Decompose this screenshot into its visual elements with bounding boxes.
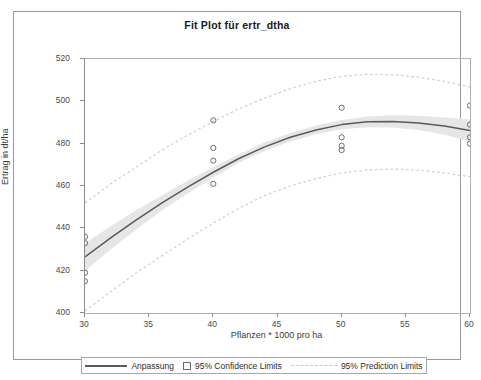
y-tick-label: 460 bbox=[36, 180, 70, 190]
y-tick-label: 480 bbox=[36, 138, 70, 148]
chart-legend: Anpassung 95% Confidence Limits 95% Pred… bbox=[81, 357, 427, 374]
fit-line bbox=[85, 121, 470, 256]
y-axis-title: Ertrag in dt/ha bbox=[0, 128, 10, 185]
dashed-line-icon bbox=[291, 365, 337, 366]
legend-entry-prediction: 95% Prediction Limits bbox=[291, 361, 423, 371]
data-points bbox=[85, 103, 470, 284]
fit-plot-screenshot: Fit Plot für ertr_dtha Ertrag in dt/ha P… bbox=[0, 0, 481, 380]
y-tick-label: 420 bbox=[36, 265, 70, 275]
x-tick-label: 45 bbox=[272, 319, 281, 329]
x-axis-title: Pflanzen * 1000 pro ha bbox=[84, 330, 469, 340]
y-tick-label: 500 bbox=[36, 95, 70, 105]
x-tick-label: 40 bbox=[208, 319, 217, 329]
x-tick-label: 30 bbox=[79, 319, 88, 329]
plot-canvas bbox=[85, 59, 470, 313]
x-tick-label: 60 bbox=[464, 319, 473, 329]
chart-panel: Fit Plot für ertr_dtha Ertrag in dt/ha P… bbox=[13, 11, 461, 360]
chart-title: Fit Plot für ertr_dtha bbox=[14, 19, 460, 31]
legend-label-confidence: 95% Confidence Limits bbox=[195, 361, 282, 371]
legend-entry-confidence: 95% Confidence Limits bbox=[183, 361, 282, 371]
prediction-limits bbox=[85, 74, 470, 311]
solid-line-icon bbox=[85, 365, 127, 367]
square-marker-icon bbox=[183, 362, 191, 370]
legend-entry-fit: Anpassung bbox=[85, 361, 174, 371]
x-tick-label: 35 bbox=[143, 319, 152, 329]
y-tick-label: 520 bbox=[36, 53, 70, 63]
x-tick-label: 55 bbox=[400, 319, 409, 329]
x-tick-label: 50 bbox=[336, 319, 345, 329]
legend-label-fit: Anpassung bbox=[131, 361, 174, 371]
legend-label-prediction: 95% Prediction Limits bbox=[341, 361, 423, 371]
y-tick-label: 400 bbox=[36, 307, 70, 317]
y-tick-label: 440 bbox=[36, 222, 70, 232]
plot-area bbox=[84, 58, 471, 314]
confidence-band bbox=[85, 115, 470, 270]
